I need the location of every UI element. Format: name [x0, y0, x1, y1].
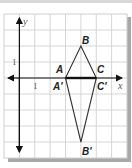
x-tick-1: 1 — [33, 81, 38, 91]
label-C: C — [97, 64, 105, 75]
y-tick-1: 1 — [12, 57, 17, 67]
x-axis-label: x — [117, 80, 123, 91]
label-A-prime: A' — [52, 81, 63, 92]
label-A: A — [55, 64, 63, 75]
y-axis-label: y — [22, 16, 28, 27]
coordinate-plane: y x 1 1 A B C A' B' C' — [0, 0, 132, 168]
label-C-prime: C' — [97, 81, 107, 92]
label-B: B — [82, 35, 89, 46]
label-B-prime: B' — [82, 146, 92, 157]
